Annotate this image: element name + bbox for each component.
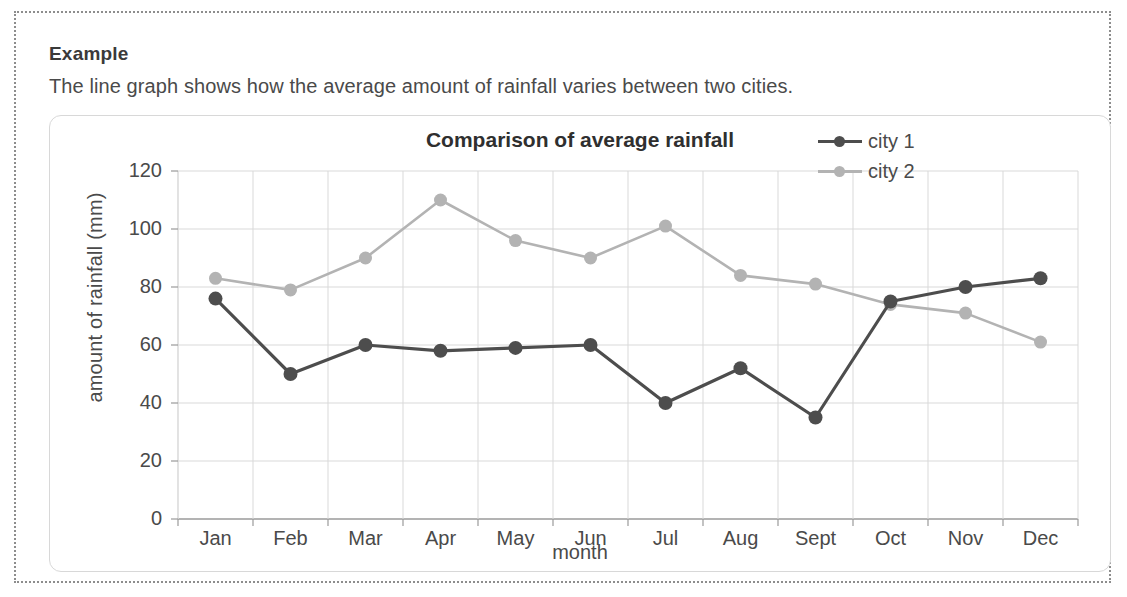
data-point: [359, 252, 372, 265]
data-point: [434, 194, 447, 207]
data-point: [509, 234, 522, 247]
data-point: [734, 269, 747, 282]
data-point: [584, 252, 597, 265]
x-tick-label: Jun: [553, 527, 628, 550]
data-point: [209, 292, 223, 306]
data-point: [509, 341, 523, 355]
y-tick-label: 20: [102, 449, 162, 472]
legend-item[interactable]: city 1: [818, 126, 958, 156]
data-point: [659, 396, 673, 410]
chart-card: Comparison of average rainfall amount of…: [49, 115, 1111, 572]
x-tick-label: Apr: [403, 527, 478, 550]
x-tick-label: Feb: [253, 527, 328, 550]
data-point: [959, 307, 972, 320]
plot-area: 020406080100120JanFebMarAprMayJunJulAugS…: [178, 171, 1078, 519]
x-tick-label: Oct: [853, 527, 928, 550]
data-point: [959, 280, 973, 294]
y-tick-label: 100: [102, 217, 162, 240]
data-point: [809, 278, 822, 291]
y-tick-label: 80: [102, 275, 162, 298]
example-description: The line graph shows how the average amo…: [49, 75, 793, 98]
y-tick-label: 120: [102, 159, 162, 182]
y-tick-label: 60: [102, 333, 162, 356]
data-point: [659, 220, 672, 233]
legend-label: city 2: [868, 160, 915, 183]
legend-dot: [834, 166, 845, 177]
data-point: [884, 295, 898, 309]
data-point: [584, 338, 598, 352]
legend-label: city 1: [868, 130, 915, 153]
x-tick-label: Jul: [628, 527, 703, 550]
data-point: [734, 361, 748, 375]
legend-item[interactable]: city 2: [818, 156, 958, 186]
x-tick-label: Jan: [178, 527, 253, 550]
example-panel: Example The line graph shows how the ave…: [14, 11, 1111, 583]
screenshot-root: Example The line graph shows how the ave…: [0, 0, 1127, 597]
data-point: [1034, 336, 1047, 349]
data-point: [434, 344, 448, 358]
legend-swatch-icon: [818, 134, 862, 148]
legend-swatch-icon: [818, 164, 862, 178]
data-point: [284, 367, 298, 381]
x-tick-label: Aug: [703, 527, 778, 550]
data-point: [809, 411, 823, 425]
x-tick-label: Dec: [1003, 527, 1078, 550]
y-tick-label: 0: [102, 507, 162, 530]
chart-legend: city 1city 2: [818, 126, 958, 186]
example-heading: Example: [49, 43, 129, 65]
legend-dot: [834, 136, 845, 147]
data-point: [284, 283, 297, 296]
data-point: [359, 338, 373, 352]
x-tick-label: May: [478, 527, 553, 550]
x-tick-label: Mar: [328, 527, 403, 550]
line-chart-svg: [178, 171, 1078, 519]
y-tick-label: 40: [102, 391, 162, 414]
data-point: [209, 272, 222, 285]
x-tick-label: Nov: [928, 527, 1003, 550]
data-point: [1034, 271, 1048, 285]
x-tick-label: Sept: [778, 527, 853, 550]
